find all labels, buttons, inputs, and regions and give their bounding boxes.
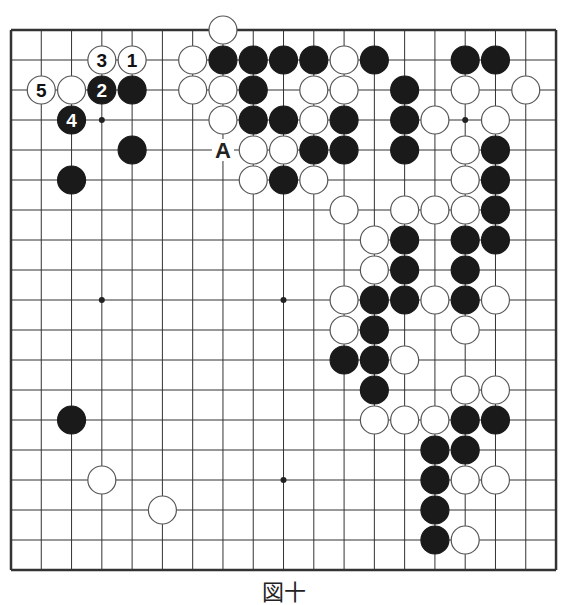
black-stone [481,46,509,74]
white-stone [330,286,358,314]
white-stone [451,316,479,344]
black-stone [360,286,388,314]
black-stone [239,46,267,74]
white-stone [209,106,237,134]
black-stone [481,136,509,164]
black-stone [451,226,479,254]
black-stone [451,436,479,464]
white-stone [512,76,540,104]
black-stone [360,46,388,74]
star-point [462,117,468,123]
black-stone [239,106,267,134]
white-stone [421,106,449,134]
star-point [281,477,287,483]
white-stone [58,76,86,104]
black-stone [481,226,509,254]
white-stone [330,76,358,104]
black-stone [300,136,328,164]
white-stone [421,286,449,314]
black-stone [360,316,388,344]
star-point [281,297,287,303]
black-stone [481,166,509,194]
move-number: 4 [66,110,77,131]
black-stone [391,76,419,104]
black-stone [118,76,146,104]
black-stone [360,376,388,404]
black-stone [270,106,298,134]
white-stone [360,226,388,254]
black-stone [391,226,419,254]
white-stone [451,76,479,104]
white-stone [451,526,479,554]
white-stone [391,346,419,374]
board-marks: A [212,138,234,163]
white-stone [88,466,116,494]
star-point [99,297,105,303]
black-stone-move-4: 4 [58,106,86,134]
white-stone [148,496,176,524]
black-stone [421,526,449,554]
black-stone [451,406,479,434]
black-stone [270,166,298,194]
white-stone [481,466,509,494]
white-stone [360,406,388,434]
white-stone [451,136,479,164]
white-stone [451,466,479,494]
move-number: 5 [36,80,47,101]
move-number: 3 [97,50,108,71]
white-stone [179,76,207,104]
white-stone [451,196,479,224]
black-stone [391,136,419,164]
white-stone [481,286,509,314]
black-stone [391,286,419,314]
black-stone [239,76,267,104]
white-stone [300,106,328,134]
white-stone [330,46,358,74]
white-stone [360,256,388,284]
black-stone [330,106,358,134]
black-stone [330,346,358,374]
move-number: 2 [97,80,108,101]
black-stone [421,496,449,524]
diagram-caption: 図十 [0,582,567,604]
black-stone [451,256,479,284]
move-number: 1 [127,50,138,71]
white-stone [239,166,267,194]
black-stone [300,46,328,74]
white-stone [330,196,358,224]
white-stone [481,106,509,134]
white-stone [391,406,419,434]
white-stone [451,166,479,194]
black-stone-move-2: 2 [88,76,116,104]
black-stone [58,406,86,434]
point-label-a: A [215,138,231,163]
black-stone [481,196,509,224]
black-stone [118,136,146,164]
black-stone [209,46,237,74]
white-stone [300,76,328,104]
black-stone [391,256,419,284]
black-stone [270,46,298,74]
white-stone [209,76,237,104]
black-stone [391,106,419,134]
black-stone [330,136,358,164]
white-stone [179,46,207,74]
star-point [99,117,105,123]
white-stone [391,196,419,224]
black-stone [451,46,479,74]
white-stone [239,136,267,164]
white-stone [209,16,237,44]
white-stone [451,376,479,404]
black-stone [58,166,86,194]
white-stone [330,316,358,344]
white-stone-move-3: 3 [88,46,116,74]
white-stone-move-5: 5 [27,76,55,104]
white-stone [421,196,449,224]
white-stone [481,376,509,404]
black-stone [360,346,388,374]
black-stone [451,286,479,314]
black-stone [481,406,509,434]
black-stone [421,436,449,464]
white-stone-move-1: 1 [118,46,146,74]
